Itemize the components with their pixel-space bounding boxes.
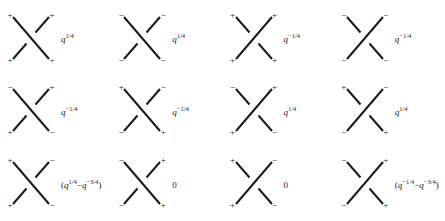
crossing-cell: −−−−q−1/4	[334, 0, 445, 75]
sign-marker-se: +	[382, 201, 390, 210]
sign-marker-se: −	[159, 56, 167, 65]
sign-marker-nw: +	[6, 156, 14, 165]
sign-marker-ne: −	[271, 156, 279, 165]
crossing-diagram: +−−+	[119, 84, 165, 136]
sign-marker-se: +	[382, 128, 390, 137]
crossing-label: 0	[172, 181, 177, 190]
exponent: −1/4	[399, 32, 411, 39]
crossing-diagram: −++−	[231, 84, 277, 136]
sign-marker-ne: +	[48, 83, 56, 92]
crossing-cell: −+−+(q−1/4−q−3/4)	[334, 145, 445, 221]
sign-marker-ne: +	[271, 83, 279, 92]
crossing-diagram: ++++	[8, 12, 54, 64]
sign-marker-nw: −	[340, 156, 348, 165]
strand-under-lower	[369, 116, 383, 132]
sign-marker-ne: −	[159, 11, 167, 20]
exponent: −1/4	[66, 105, 78, 112]
sign-marker-nw: −	[117, 156, 125, 165]
sign-marker-nw: +	[6, 11, 14, 20]
strand-under-upper	[347, 89, 361, 105]
sign-marker-se: −	[271, 201, 279, 210]
exponent: 1/4	[69, 178, 77, 185]
crossing-cell: −+−+0	[111, 145, 222, 221]
strand-under-lower	[258, 189, 272, 205]
sign-marker-nw: +	[117, 83, 125, 92]
crossing-label: q1/4	[395, 108, 408, 117]
strand-under-upper	[347, 162, 361, 178]
exponent: −1/4	[402, 178, 414, 185]
strand-under-lower	[258, 43, 272, 59]
sign-marker-sw: −	[340, 56, 348, 65]
sign-marker-se: +	[159, 128, 167, 137]
sign-marker-ne: −	[159, 83, 167, 92]
strand-under-upper	[236, 162, 250, 178]
crossing-cell: +−−+q−1/4	[111, 75, 222, 145]
sign-marker-nw: +	[229, 156, 237, 165]
crossing-label: q−1/4	[284, 35, 300, 44]
sign-marker-nw: −	[6, 83, 14, 92]
exponent: −1/4	[177, 105, 189, 112]
sign-marker-se: −	[271, 128, 279, 137]
sign-marker-nw: −	[117, 11, 125, 20]
strand-under-upper	[36, 17, 50, 33]
crossing-label: q−1/4	[61, 108, 77, 117]
crossing-diagram: +−+−	[8, 157, 54, 209]
sign-marker-ne: +	[159, 156, 167, 165]
sign-marker-nw: −	[340, 11, 348, 20]
crossing-label: q1/4	[284, 108, 297, 117]
exponent: 1/4	[288, 105, 296, 112]
exponent: −1/4	[288, 32, 300, 39]
strand-under-upper	[147, 17, 161, 33]
sign-marker-nw: +	[229, 11, 237, 20]
sign-marker-ne: +	[382, 156, 390, 165]
exponent: −3/4	[86, 178, 98, 185]
sign-marker-sw: +	[229, 56, 237, 65]
exponent: 1/4	[177, 32, 185, 39]
sign-marker-ne: −	[382, 83, 390, 92]
crossing-label: (q1/4−q−3/4)	[61, 181, 101, 190]
crossing-table: ++++q1/4−−−−q1/4++++q−1/4−−−−q−1/4−++−q−…	[0, 0, 445, 221]
crossing-diagram: −+−+	[342, 157, 388, 209]
crossing-diagram: ++++	[231, 12, 277, 64]
crossing-label: q1/4	[61, 35, 74, 44]
crossing-label: q−1/4	[172, 108, 188, 117]
strand-under-lower	[369, 43, 383, 59]
sign-marker-nw: +	[340, 83, 348, 92]
crossing-diagram: −+−+	[119, 157, 165, 209]
crossing-diagram: −++−	[8, 84, 54, 136]
exponent: 1/4	[399, 105, 407, 112]
crossing-cell: +−−+q1/4	[334, 75, 445, 145]
crossing-cell: +−+−0	[223, 145, 334, 221]
strand-under-upper	[236, 89, 250, 105]
strand-under-upper	[147, 89, 161, 105]
sign-marker-se: +	[48, 56, 56, 65]
crossing-label: (q−1/4−q−3/4)	[395, 181, 439, 190]
crossing-diagram: −−−−	[342, 12, 388, 64]
sign-marker-sw: +	[229, 128, 237, 137]
sign-marker-ne: +	[48, 11, 56, 20]
sign-marker-ne: +	[271, 11, 279, 20]
exponent: −3/4	[424, 178, 436, 185]
sign-marker-se: +	[271, 56, 279, 65]
sign-marker-ne: −	[382, 11, 390, 20]
crossing-diagram: +−−+	[342, 84, 388, 136]
strand-under-upper	[36, 162, 50, 178]
crossing-label: 0	[284, 181, 289, 190]
sign-marker-se: −	[48, 201, 56, 210]
strand-under-lower	[13, 116, 27, 132]
sign-marker-sw: −	[117, 56, 125, 65]
crossing-cell: −++−q1/4	[223, 75, 334, 145]
crossing-label: q−1/4	[395, 35, 411, 44]
sign-marker-sw: −	[340, 201, 348, 210]
sign-marker-sw: +	[6, 128, 14, 137]
exponent: 1/4	[66, 32, 74, 39]
strand-under-upper	[147, 162, 161, 178]
sign-marker-sw: −	[340, 128, 348, 137]
sign-marker-nw: −	[229, 83, 237, 92]
crossing-cell: +−+−(q1/4−q−3/4)	[0, 145, 111, 221]
crossing-cell: −++−q−1/4	[0, 75, 111, 145]
strand-under-upper	[347, 17, 361, 33]
sign-marker-sw: −	[117, 128, 125, 137]
sign-marker-ne: −	[48, 156, 56, 165]
sign-marker-sw: +	[6, 201, 14, 210]
